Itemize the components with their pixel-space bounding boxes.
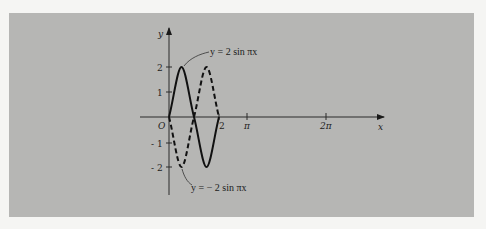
annotation-neg-2-sin-pix: y = − 2 sin πx: [191, 182, 247, 193]
y-axis-label: y: [157, 29, 164, 39]
y-tick-label-2: 2: [157, 63, 163, 73]
x-axis-label: x: [378, 122, 383, 132]
x-tick-label-pi: π: [243, 121, 251, 131]
x-tick-label-2: 2: [219, 121, 225, 131]
sine-graph: y x O 2 π 2π 2 1 - 1 - 2 y = 2 sin πx y …: [0, 0, 486, 229]
y-tick-label-minus-2: - 2: [151, 163, 163, 173]
y-tick-label-1: 1: [157, 88, 163, 98]
y-tick-label-minus-1: - 1: [151, 139, 163, 149]
origin-label: O: [158, 121, 166, 131]
annotation-leader-top: [184, 52, 209, 66]
x-tick-label-2pi: 2π: [319, 121, 333, 131]
annotation-2-sin-pix: y = 2 sin πx: [210, 46, 257, 57]
